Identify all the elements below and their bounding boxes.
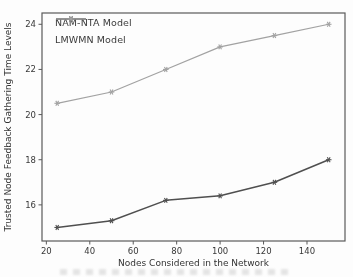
x-tick-label: 80 [171,246,182,256]
y-tick-label: 16 [25,200,36,210]
legend-label: LMWMN Model [55,34,126,45]
x-tick-label: 60 [128,246,139,256]
chart-canvas: 204060801001201401618202224Nodes Conside… [0,0,353,277]
y-axis-label: Trusted Node Feedback Gathering Time Lev… [3,22,13,232]
y-tick-label: 22 [25,64,36,74]
line-chart-figure: 204060801001201401618202224Nodes Conside… [0,0,353,277]
y-tick-label: 20 [25,110,36,120]
x-tick-label: 20 [41,246,52,256]
x-tick-label: 120 [255,246,271,256]
chart-legend: NAM-NTA Model LMWMN Model [55,14,132,48]
x-tick-label: 40 [84,246,95,256]
y-tick-label: 18 [25,155,36,165]
legend-line-marker-icon [55,14,87,24]
y-tick-label: 24 [25,19,36,29]
x-axis-label: Nodes Considered in the Network [118,258,270,268]
x-tick-label: 100 [212,246,228,256]
scan-artifact [60,269,290,275]
x-tick-label: 140 [299,246,315,256]
series-line-0 [57,160,329,228]
legend-item-lmwmn: LMWMN Model [55,31,132,48]
